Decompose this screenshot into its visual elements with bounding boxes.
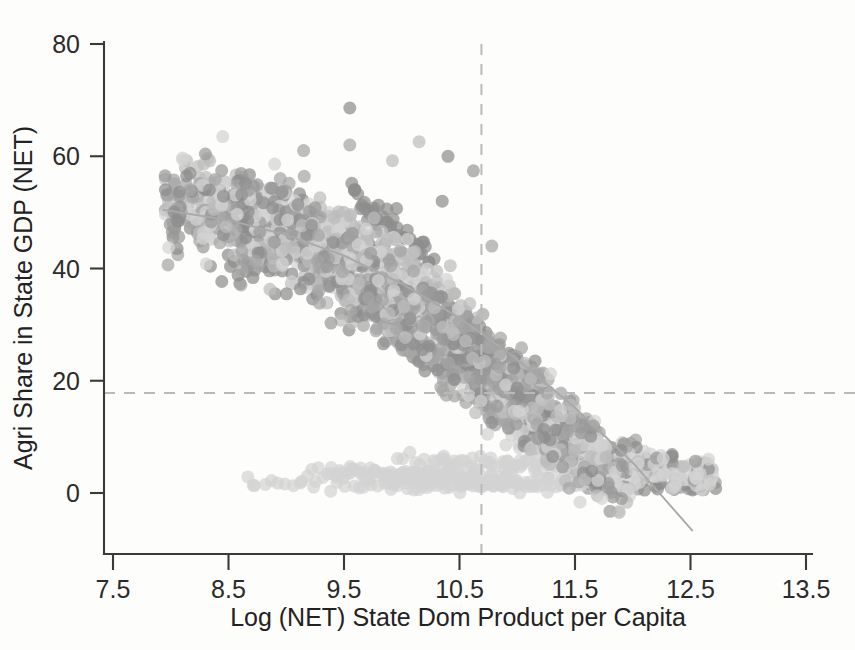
data-point: [264, 182, 277, 195]
data-point: [512, 405, 525, 418]
data-point: [297, 144, 310, 157]
data-point: [197, 232, 210, 245]
data-point: [515, 341, 528, 354]
y-tick-label: 80: [52, 30, 80, 58]
data-point: [239, 231, 252, 244]
data-point: [281, 213, 294, 226]
data-point: [376, 293, 389, 306]
data-point: [702, 453, 715, 466]
data-point: [442, 357, 455, 370]
data-point: [401, 233, 414, 246]
data-point: [303, 205, 316, 218]
data-point: [303, 272, 316, 285]
data-point: [394, 244, 407, 257]
data-point: [677, 460, 690, 473]
data-point: [669, 480, 682, 493]
data-point: [184, 167, 197, 180]
data-point: [235, 245, 248, 258]
data-point: [312, 229, 325, 242]
data-point: [200, 257, 213, 270]
y-tick-label: 20: [52, 367, 80, 395]
data-point: [467, 164, 480, 177]
data-point: [325, 317, 338, 330]
data-point: [494, 361, 507, 374]
data-point: [268, 236, 281, 249]
data-point: [173, 186, 186, 199]
data-point: [524, 443, 537, 456]
data-point: [220, 220, 233, 233]
data-point: [416, 343, 429, 356]
data-point: [372, 274, 385, 287]
data-point: [263, 283, 276, 296]
data-point: [615, 492, 628, 505]
data-point: [249, 255, 262, 268]
data-point: [386, 154, 399, 167]
data-point: [436, 321, 449, 334]
data-point: [531, 402, 544, 415]
data-point: [442, 150, 455, 163]
data-point: [313, 284, 326, 297]
data-point: [362, 291, 375, 304]
data-point: [600, 450, 613, 463]
x-tick-label: 9.5: [327, 575, 362, 603]
data-point: [544, 367, 557, 380]
data-point: [172, 230, 185, 243]
data-point: [595, 492, 608, 505]
data-point: [491, 400, 504, 413]
data-point: [176, 152, 189, 165]
data-point: [575, 426, 588, 439]
y-axis-title: Agri Share in State GDP (NET): [9, 126, 37, 470]
data-points-layer: [159, 102, 723, 519]
data-point: [564, 412, 577, 425]
data-point: [556, 460, 569, 473]
data-point: [550, 410, 563, 423]
data-point: [383, 307, 396, 320]
data-point: [327, 236, 340, 249]
data-point: [298, 170, 311, 183]
data-point: [418, 364, 431, 377]
data-point: [294, 282, 307, 295]
data-point: [344, 304, 357, 317]
data-point: [481, 341, 494, 354]
data-point: [404, 312, 417, 325]
x-tick-label: 8.5: [211, 575, 246, 603]
x-tick-label: 10.5: [435, 575, 484, 603]
data-point: [276, 257, 289, 270]
data-point: [215, 275, 228, 288]
data-point: [478, 355, 491, 368]
data-point: [162, 241, 175, 254]
data-point: [466, 352, 479, 365]
data-point: [370, 324, 383, 337]
data-point: [279, 242, 292, 255]
data-point: [499, 379, 512, 392]
data-point: [377, 337, 390, 350]
data-point: [217, 190, 230, 203]
data-point: [507, 362, 520, 375]
plot-canvas: 020406080 7.58.59.510.511.512.513.5 Log …: [0, 0, 855, 650]
data-point: [407, 265, 420, 278]
data-point: [384, 260, 397, 273]
data-point: [689, 455, 702, 468]
data-point: [368, 212, 381, 225]
x-tick-label: 12.5: [666, 575, 715, 603]
data-point: [280, 287, 293, 300]
data-point: [704, 474, 717, 487]
data-point: [235, 263, 248, 276]
data-point: [463, 297, 476, 310]
data-point: [387, 284, 400, 297]
data-point: [231, 208, 244, 221]
data-point: [543, 398, 556, 411]
data-point: [448, 373, 461, 386]
data-point: [159, 183, 172, 196]
data-point: [276, 185, 289, 198]
data-point: [343, 102, 356, 115]
data-point: [574, 496, 587, 509]
data-point: [469, 406, 482, 419]
data-point: [459, 335, 472, 348]
data-point: [447, 328, 460, 341]
data-point: [585, 465, 598, 478]
data-point: [313, 297, 326, 310]
data-point: [413, 135, 426, 148]
data-point: [360, 223, 373, 236]
data-point: [408, 245, 421, 258]
